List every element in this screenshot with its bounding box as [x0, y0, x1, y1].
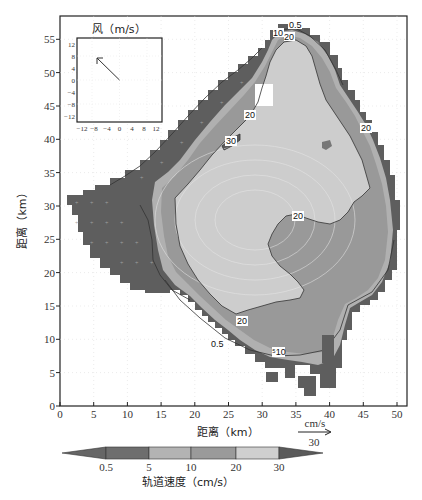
svg-text:5: 5: [91, 408, 97, 420]
x-tick-labels: 05 1015 2025 3035 4045 50: [57, 408, 403, 420]
reference-vector: cm/s 30: [298, 417, 331, 448]
y-tick-labels: 05 1015 2025 3035 4045 5055: [44, 33, 56, 412]
svg-text:30: 30: [226, 136, 236, 146]
chart: +++ ++++ ++++ +++ +++ +++ 0.5 10 20 20 3…: [0, 0, 422, 500]
reference-vector-unit: cm/s: [305, 417, 326, 429]
svg-text:0: 0: [50, 400, 56, 412]
svg-text:20: 20: [237, 316, 247, 326]
wind-inset: 风（m/s） 128 40 −4−8 −12 −12−8 −40 48 12: [64, 23, 162, 133]
svg-text:⁵10: ⁵10: [272, 347, 286, 357]
svg-text:−4: −4: [103, 125, 111, 133]
svg-text:25: 25: [44, 233, 56, 245]
svg-text:50: 50: [392, 408, 404, 420]
svg-text:−8: −8: [68, 101, 76, 109]
svg-text:0: 0: [57, 408, 63, 420]
svg-text:35: 35: [290, 408, 302, 420]
svg-text:20: 20: [44, 267, 56, 279]
svg-text:0.5: 0.5: [289, 20, 302, 30]
svg-text:12: 12: [68, 41, 76, 49]
svg-text:8: 8: [72, 53, 76, 61]
colorbar: 0.5 5 10 20 30 轨道速度（cm/s）: [62, 447, 323, 489]
colorbar-label: 轨道速度（cm/s）: [142, 475, 234, 489]
svg-text:20: 20: [245, 110, 255, 120]
svg-text:40: 40: [324, 408, 336, 420]
svg-text:10: 10: [44, 333, 56, 345]
svg-text:15: 15: [44, 300, 56, 312]
svg-text:4: 4: [130, 125, 134, 133]
svg-text:30: 30: [257, 408, 269, 420]
reference-vector-value: 30: [309, 436, 321, 448]
y-axis-title: 距离（km）: [15, 187, 29, 248]
svg-text:20: 20: [231, 461, 243, 473]
svg-text:−4: −4: [68, 89, 76, 97]
svg-text:0.5: 0.5: [99, 461, 113, 473]
svg-text:8: 8: [142, 125, 146, 133]
svg-text:12: 12: [153, 125, 161, 133]
svg-text:20: 20: [361, 123, 371, 133]
svg-text:45: 45: [44, 100, 56, 112]
svg-text:10: 10: [122, 408, 134, 420]
svg-text:10: 10: [186, 461, 198, 473]
svg-text:30: 30: [274, 461, 286, 473]
svg-text:−12: −12: [77, 125, 88, 133]
svg-text:35: 35: [44, 167, 56, 179]
svg-text:20: 20: [293, 211, 303, 221]
svg-text:5: 5: [50, 367, 56, 379]
svg-text:20: 20: [189, 408, 201, 420]
svg-text:−8: −8: [90, 125, 98, 133]
inset-title: 风（m/s）: [92, 23, 145, 36]
x-axis-title: 距离（km）: [197, 425, 258, 439]
svg-text:15: 15: [156, 408, 168, 420]
svg-text:40: 40: [44, 133, 56, 145]
svg-text:0.5: 0.5: [211, 339, 224, 349]
svg-text:5: 5: [146, 461, 152, 473]
svg-text:25: 25: [223, 408, 235, 420]
svg-text:45: 45: [358, 408, 370, 420]
svg-text:0: 0: [118, 125, 122, 133]
svg-text:20: 20: [284, 32, 294, 42]
svg-text:−12: −12: [64, 113, 75, 121]
svg-text:10: 10: [273, 28, 283, 38]
svg-text:50: 50: [44, 67, 56, 79]
svg-text:30: 30: [44, 200, 56, 212]
svg-text:0: 0: [72, 77, 76, 85]
svg-text:4: 4: [72, 65, 76, 73]
svg-text:55: 55: [44, 33, 56, 45]
